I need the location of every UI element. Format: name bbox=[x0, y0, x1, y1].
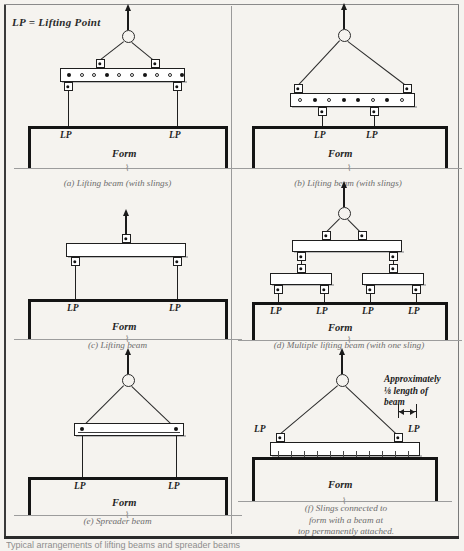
panel-b-beam-hole-6 bbox=[385, 98, 389, 102]
panel-f-lp-left: LP bbox=[254, 424, 266, 434]
panel-a-bottom-lug-left bbox=[64, 82, 73, 91]
panel-b-drop-line-right bbox=[374, 116, 375, 126]
panel-a-sling-right bbox=[131, 42, 154, 61]
panel-a-sling-left bbox=[100, 41, 124, 60]
panel-f-lug-right bbox=[394, 433, 403, 442]
hook-arrow-head bbox=[339, 348, 345, 355]
panel-d-lp-right-right: LP bbox=[408, 306, 420, 316]
panel-d-sub-left-bottom-lug-right bbox=[320, 285, 329, 294]
panel-d-lp-left-right: LP bbox=[316, 306, 328, 316]
panel-d-right-drop-right bbox=[416, 294, 417, 302]
panel-e-form-top-plate bbox=[28, 477, 228, 480]
panel-b-form-break-symbol: ⌇ bbox=[347, 164, 351, 173]
panel-b-drop-line-left bbox=[322, 116, 323, 126]
panel-b-beam-hole-7 bbox=[400, 98, 404, 102]
panel-a-drop-line-right bbox=[177, 91, 178, 126]
hook-arrow-stem bbox=[341, 354, 342, 374]
panel-e-sling-left bbox=[82, 385, 124, 427]
panel-c-form-right-wall bbox=[225, 299, 228, 339]
panel-d-main-top-lug-right bbox=[358, 231, 367, 240]
panel-d-form-left-wall bbox=[252, 302, 255, 340]
panel-a-lp-right: LP bbox=[169, 130, 181, 140]
panel-a-form-left-wall bbox=[28, 126, 31, 168]
panel-c-bottom-lug-right bbox=[173, 257, 182, 266]
panel-f-caption-line-2: top permanently attached. bbox=[266, 526, 426, 538]
panel-e-form-label: Form bbox=[112, 497, 137, 508]
hook-arrow-stem bbox=[343, 187, 344, 207]
hook-arrow-stem bbox=[127, 354, 128, 374]
panel-f-lp-right: LP bbox=[408, 424, 420, 434]
panel-b-lp-left: LP bbox=[314, 130, 326, 140]
panel-d-form-right-wall bbox=[445, 302, 448, 340]
panel-b-beam-hole-5 bbox=[371, 98, 375, 102]
panel-a-beam-hole-8 bbox=[168, 73, 172, 77]
panel-d-sub-left-top-lug bbox=[297, 264, 306, 273]
panel-b-top-lug-right bbox=[403, 84, 412, 93]
panel-e-spreader-beam bbox=[74, 423, 184, 436]
panel-a-drop-line-left bbox=[68, 91, 69, 126]
panel-d-sub-beam-right bbox=[362, 273, 424, 285]
panel-b-beam-hole-4 bbox=[356, 98, 360, 102]
panel-c-lp-right: LP bbox=[169, 303, 181, 313]
hook-arrow-head bbox=[341, 3, 347, 10]
panel-b-form-label: Form bbox=[328, 148, 353, 159]
hook-arrow-head bbox=[125, 348, 131, 355]
panel-b-beam-hole-0 bbox=[298, 98, 302, 102]
panel-d-sub-right-bottom-lug-left bbox=[366, 285, 375, 294]
hook-arrow-head bbox=[341, 181, 347, 188]
panel-a-beam-hole-6 bbox=[143, 73, 147, 77]
panel-d-sub-beam-left bbox=[270, 273, 332, 285]
panel-c-drop-line-left bbox=[75, 266, 76, 299]
panel-e-beam-inner-line bbox=[78, 432, 180, 433]
panel-a-form-break-symbol: ⌇ bbox=[125, 164, 129, 173]
panel-f-caption-line-0: (f) Slings connected to bbox=[266, 503, 426, 515]
panel-b-form-top-plate bbox=[252, 126, 448, 129]
panel-b-bottom-lug-left bbox=[318, 107, 327, 116]
panel-c-lifting-beam: ⌇LPLPForm bbox=[0, 195, 231, 345]
panel-f-form-left-wall bbox=[252, 457, 255, 501]
panel-e-sling-right bbox=[131, 386, 175, 428]
panel-d-sub-right-bottom-lug-right bbox=[412, 285, 421, 294]
panel-a-beam-hole-0 bbox=[67, 73, 71, 77]
panel-f-form-right-wall bbox=[435, 457, 438, 501]
panel-d-form-top-plate bbox=[252, 302, 448, 305]
hook-arrow-stem bbox=[343, 9, 344, 29]
panel-c-form-label: Form bbox=[112, 321, 137, 332]
panel-b-lifting-beam-with-slings: ⌇LPLPForm bbox=[232, 0, 464, 190]
panel-d-lp-left-left: LP bbox=[270, 306, 282, 316]
panel-a-caption: (a) Lifting beam (with slings) bbox=[20, 178, 215, 189]
hook-arrow-head bbox=[125, 4, 131, 11]
panel-d-right-drop-left bbox=[370, 294, 371, 302]
panel-d-lp-right-left: LP bbox=[362, 306, 374, 316]
panel-d-main-bottom-lug-left bbox=[297, 252, 306, 261]
panel-a-lifting-beam bbox=[60, 68, 185, 82]
panel-b-caption: (b) Lifting beam (with slings) bbox=[248, 178, 448, 189]
panel-f-permanent-beam bbox=[270, 442, 420, 456]
panel-e-lp-left: LP bbox=[74, 481, 86, 491]
panel-a-top-lug-left bbox=[96, 59, 105, 68]
panel-b-top-lug-left bbox=[294, 84, 303, 93]
panel-c-lift-arrow-head bbox=[123, 209, 129, 216]
diagram-page: LP = Lifting Point ⌇LPLPForm (a) Lifting… bbox=[0, 0, 464, 551]
panel-f-lug-left bbox=[276, 433, 285, 442]
panel-f-form-label: Form bbox=[328, 479, 353, 490]
panel-e-lp-right: LP bbox=[168, 481, 180, 491]
panel-a-form-top-plate bbox=[28, 126, 228, 129]
panel-c-lifting-beam bbox=[66, 243, 186, 257]
panel-e-end-pin-left bbox=[80, 427, 84, 431]
panel-b-sling-left bbox=[298, 40, 340, 85]
figure-footer-caption: Typical arrangements of lifting beams an… bbox=[6, 540, 456, 550]
panel-b-beam-hole-3 bbox=[342, 98, 346, 102]
panel-e-form-right-wall bbox=[225, 477, 228, 515]
panel-b-form-left-wall bbox=[252, 126, 255, 168]
panel-a-beam-hole-3 bbox=[105, 73, 109, 77]
panel-f-caption: (f) Slings connected toform with a beam … bbox=[266, 503, 426, 538]
hook-arrow-stem bbox=[127, 10, 128, 30]
panel-d-main-beam bbox=[292, 240, 402, 252]
panel-e-end-pin-right bbox=[174, 427, 178, 431]
panel-c-bottom-lug-left bbox=[71, 257, 80, 266]
panel-c-drop-line-right bbox=[177, 266, 178, 299]
panel-e-drop-line-left bbox=[82, 436, 83, 477]
panel-d-sub-left-bottom-lug-left bbox=[274, 285, 283, 294]
panel-d-left-drop-left bbox=[278, 294, 279, 302]
